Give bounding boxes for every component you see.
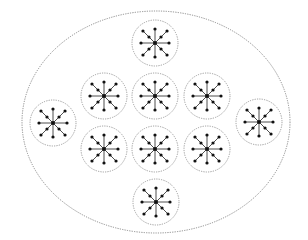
leaf-node xyxy=(51,107,54,110)
mid-node xyxy=(251,126,254,129)
leaf-node xyxy=(217,82,220,85)
cluster-row2-center xyxy=(132,73,178,119)
hub-node xyxy=(257,120,261,124)
leaf-node xyxy=(141,106,144,109)
leaf-node xyxy=(141,82,144,85)
leaf-node xyxy=(90,106,93,109)
leaf-node xyxy=(102,108,105,111)
leaf-node xyxy=(166,188,169,191)
leaf-node xyxy=(102,133,105,136)
leaf-node xyxy=(191,94,194,97)
cluster-top xyxy=(132,20,178,66)
mid-node xyxy=(159,47,162,50)
hub-node xyxy=(205,147,209,151)
leaf-node xyxy=(39,133,42,136)
leaf-node xyxy=(90,82,93,85)
leaf-node xyxy=(193,159,196,162)
mid-node xyxy=(148,194,151,197)
leaf-node xyxy=(153,133,156,136)
mid-node xyxy=(211,88,214,91)
mid-node xyxy=(147,153,150,156)
hub-node xyxy=(153,94,157,98)
leaf-node xyxy=(154,186,157,189)
mid-node xyxy=(160,206,163,209)
leaf-node xyxy=(269,108,272,111)
hub-node xyxy=(154,200,158,204)
mid-node xyxy=(147,47,150,50)
cluster-row3-left xyxy=(81,126,127,172)
mid-node xyxy=(96,88,99,91)
mid-node xyxy=(199,153,202,156)
leaf-node xyxy=(165,159,168,162)
hub-node xyxy=(102,94,106,98)
leaf-node xyxy=(191,147,194,150)
mid-node xyxy=(108,153,111,156)
leaf-node xyxy=(154,214,157,217)
mid-node xyxy=(159,141,162,144)
leaf-node xyxy=(193,135,196,138)
leaf-node xyxy=(217,106,220,109)
leaf-node xyxy=(51,135,54,138)
leaf-node xyxy=(167,94,170,97)
leaf-node xyxy=(165,106,168,109)
leaf-node xyxy=(153,55,156,58)
leaf-node xyxy=(102,161,105,164)
cluster-row2-left xyxy=(81,73,127,119)
cluster-diagram xyxy=(0,0,308,240)
mid-node xyxy=(263,114,266,117)
leaf-node xyxy=(63,109,66,112)
leaf-node xyxy=(166,212,169,215)
leaf-node xyxy=(153,27,156,30)
cluster-row3-right xyxy=(184,126,230,172)
mid-node xyxy=(96,153,99,156)
leaf-node xyxy=(39,109,42,112)
cluster-bottom xyxy=(133,179,179,225)
mid-node xyxy=(148,206,151,209)
leaf-node xyxy=(167,41,170,44)
leaf-node xyxy=(243,120,246,123)
leaf-node xyxy=(153,80,156,83)
mid-node xyxy=(45,127,48,130)
mid-node xyxy=(199,100,202,103)
mid-node xyxy=(147,88,150,91)
mid-node xyxy=(211,100,214,103)
leaf-node xyxy=(141,29,144,32)
leaf-node xyxy=(205,108,208,111)
leaf-node xyxy=(269,132,272,135)
mid-node xyxy=(263,126,266,129)
leaf-node xyxy=(167,147,170,150)
leaf-node xyxy=(245,132,248,135)
leaf-node xyxy=(193,82,196,85)
mid-node xyxy=(57,115,60,118)
mid-node xyxy=(108,100,111,103)
leaf-node xyxy=(141,135,144,138)
leaf-node xyxy=(114,106,117,109)
mid-node xyxy=(159,35,162,38)
leaf-node xyxy=(141,53,144,56)
leaf-node xyxy=(37,121,40,124)
diagram-canvas xyxy=(0,0,308,240)
mid-node xyxy=(147,141,150,144)
leaf-node xyxy=(142,188,145,191)
leaf-node xyxy=(116,147,119,150)
leaf-node xyxy=(116,94,119,97)
leaf-node xyxy=(193,106,196,109)
leaf-node xyxy=(217,159,220,162)
leaf-node xyxy=(65,121,68,124)
mid-node xyxy=(159,88,162,91)
cluster-far-left xyxy=(30,100,76,146)
leaf-node xyxy=(63,133,66,136)
hub-node xyxy=(153,147,157,151)
leaf-node xyxy=(168,200,171,203)
leaf-node xyxy=(90,135,93,138)
mid-node xyxy=(147,35,150,38)
leaf-node xyxy=(139,147,142,150)
leaf-node xyxy=(153,108,156,111)
mid-node xyxy=(199,88,202,91)
mid-node xyxy=(96,141,99,144)
clusters-group xyxy=(30,20,282,225)
leaf-node xyxy=(165,29,168,32)
leaf-node xyxy=(257,134,260,137)
leaf-node xyxy=(165,53,168,56)
leaf-node xyxy=(217,135,220,138)
